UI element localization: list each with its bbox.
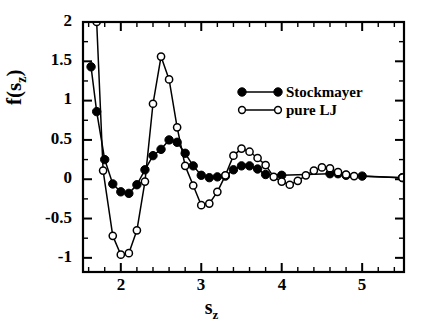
y-axis-title-sub: z <box>14 77 29 83</box>
data-point <box>125 189 133 197</box>
data-point <box>117 251 124 258</box>
data-point <box>157 145 165 153</box>
data-point <box>310 167 317 174</box>
data-point <box>182 162 189 169</box>
data-point <box>261 170 269 178</box>
data-point <box>189 162 197 170</box>
data-point <box>214 188 221 195</box>
data-point <box>245 162 253 170</box>
data-point <box>294 177 301 184</box>
y-tick-label-1p5: 1.5 <box>26 50 72 70</box>
x-tick-label-5: 5 <box>347 275 377 295</box>
data-point <box>230 152 237 159</box>
data-point <box>92 107 100 115</box>
data-point <box>197 171 205 179</box>
data-point <box>270 173 277 180</box>
legend-stockmayer-marker <box>238 88 246 96</box>
x-tick-label-2: 2 <box>106 275 136 295</box>
legend-markers <box>238 88 282 114</box>
data-point <box>286 181 293 188</box>
data-point <box>165 136 173 144</box>
data-point <box>213 173 221 181</box>
data-point <box>109 232 116 239</box>
data-point <box>157 53 164 60</box>
data-point <box>262 161 269 168</box>
data-point <box>149 151 157 159</box>
data-point <box>100 167 107 174</box>
data-point <box>141 166 149 174</box>
data-point <box>198 202 205 209</box>
data-point <box>117 188 125 196</box>
legend-label-pure-lj: pure LJ <box>286 102 337 119</box>
legend-pure-lj-marker <box>239 107 246 114</box>
x-tick-label-3: 3 <box>186 275 216 295</box>
data-point <box>141 178 148 185</box>
data-point <box>326 165 333 172</box>
legend-label-stockmayer: Stockmayer <box>286 84 363 101</box>
data-point <box>334 169 341 176</box>
y-axis-title-pre: f(s <box>2 83 26 105</box>
data-point <box>342 171 349 178</box>
data-point <box>125 250 132 257</box>
data-point <box>133 181 141 189</box>
data-point <box>222 172 229 179</box>
y-axis-title-post: ) <box>2 70 26 77</box>
figure-container: 2 1.5 1 0.5 0 -0.5 -1 2 3 4 5 f(sz) sz S… <box>0 0 423 333</box>
data-point <box>174 124 181 131</box>
data-point <box>351 172 358 179</box>
data-point <box>149 100 156 107</box>
data-point <box>205 173 213 181</box>
legend-pure-lj-marker <box>275 107 282 114</box>
data-point <box>246 148 253 155</box>
data-point <box>238 145 245 152</box>
data-point <box>254 154 261 161</box>
data-point <box>253 165 261 173</box>
data-point <box>133 227 140 234</box>
data-point <box>278 178 285 185</box>
y-tick-label-1: 1 <box>26 89 72 109</box>
data-point <box>318 164 325 171</box>
data-point <box>190 182 197 189</box>
x-axis-title: sz <box>0 296 423 323</box>
y-tick-label-m0p5: -0.5 <box>26 208 72 228</box>
y-tick-label-0: 0 <box>26 168 72 188</box>
data-point <box>237 162 245 170</box>
data-point <box>109 180 117 188</box>
x-tick-label-4: 4 <box>267 275 297 295</box>
x-axis-title-sub: z <box>213 307 219 322</box>
y-axis-title: f(sz) <box>2 0 30 105</box>
y-tick-label-2: 2 <box>26 11 72 31</box>
data-point <box>302 172 309 179</box>
data-point <box>165 76 172 83</box>
data-point <box>206 200 213 207</box>
y-tick-label-m1: -1 <box>26 247 72 267</box>
x-axis-title-base: s <box>205 296 213 318</box>
data-series-group <box>87 18 407 258</box>
y-tick-label-0p5: 0.5 <box>26 129 72 149</box>
series-line-pure-lj <box>97 22 403 255</box>
legend-stockmayer-marker <box>274 88 282 96</box>
data-point <box>229 166 237 174</box>
data-point <box>87 63 95 71</box>
